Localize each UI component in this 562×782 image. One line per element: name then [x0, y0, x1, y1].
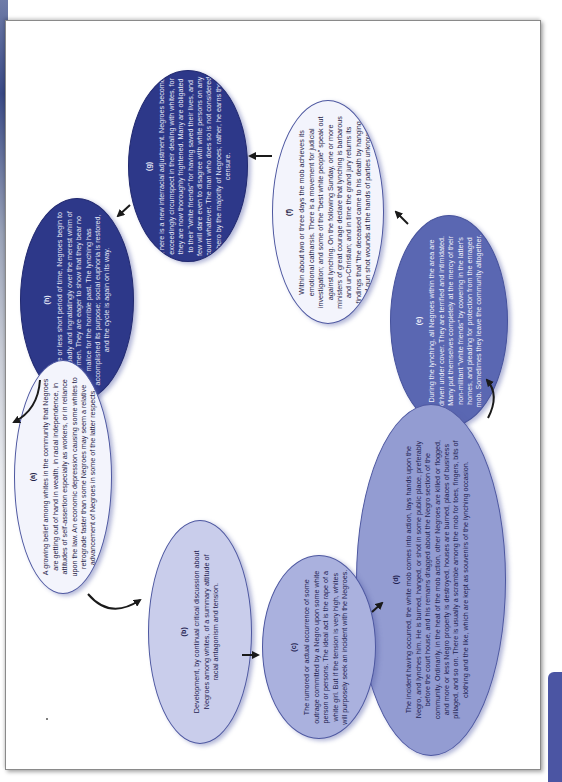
node-f-text: Within about two or three days the mob a…	[297, 116, 372, 309]
node-e-label: (e)	[414, 230, 423, 412]
node-f-label: (f)	[284, 114, 293, 310]
node-b: (b) Development, by continual critical d…	[148, 520, 252, 744]
node-c-text: The rumored or actual occurrence of some…	[302, 570, 349, 725]
node-b-label: (b)	[179, 547, 188, 717]
node-d-label: (d)	[391, 435, 400, 725]
node-f: (f) Within about two or three days the m…	[272, 100, 384, 324]
node-g: (g) There is a new interracial adjustmen…	[128, 70, 248, 262]
node-a-text: A growing belief among whites in the com…	[41, 377, 97, 576]
node-c: (c) The rumored or actual occurrence of …	[262, 555, 376, 739]
node-b-text: Development, by continual critical discu…	[193, 551, 221, 714]
side-tab	[548, 672, 562, 782]
node-a: (a) A growing belief among whites in the…	[14, 360, 112, 594]
node-d: (d) The incident having occurred, the wh…	[356, 404, 506, 756]
node-g-label: (g)	[144, 76, 153, 256]
node-d-text: The incident having occurred, the white …	[405, 440, 470, 719]
node-a-label: (a)	[28, 377, 37, 577]
node-e-text: During the lynching, all Negroes within …	[427, 235, 483, 408]
node-g-text: There is a new interracial adjustment. N…	[157, 76, 232, 255]
stray-mark	[46, 718, 48, 720]
node-e: (e) During the lynching, all Negroes wit…	[390, 215, 508, 427]
node-c-label: (c)	[289, 567, 298, 727]
